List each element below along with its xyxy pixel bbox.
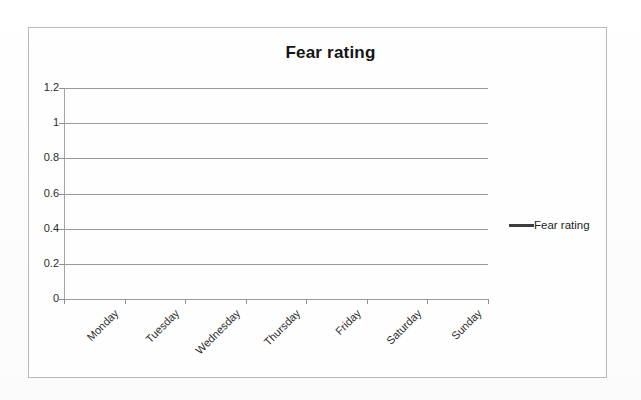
y-tick-label-wrap: 0.6: [29, 188, 59, 199]
plot-area: [64, 88, 488, 299]
y-tick-label: 0.4: [33, 223, 59, 234]
y-tick-label: 0.2: [33, 258, 59, 269]
y-tick-mark: [59, 88, 64, 89]
y-tick-mark: [59, 264, 64, 265]
y-tick-label-wrap: 0.8: [29, 152, 59, 163]
gridline: [64, 123, 488, 124]
chart-frame: Fear rating 00.20.40.60.811.2 MondayTues…: [28, 27, 607, 378]
gridline: [64, 158, 488, 159]
chart-legend: Fear rating: [509, 219, 590, 231]
x-tick-mark: [125, 299, 126, 304]
x-tick-mark: [246, 299, 247, 304]
y-tick-label-wrap: 0: [29, 293, 59, 304]
x-tick-mark: [306, 299, 307, 304]
x-axis-category-label: Monday: [85, 307, 121, 343]
x-tick-mark: [64, 299, 65, 304]
gridline: [64, 194, 488, 195]
y-tick-mark: [59, 229, 64, 230]
y-tick-label: 1: [33, 117, 59, 128]
y-tick-label: 0.8: [33, 152, 59, 163]
y-tick-label: 1.2: [33, 82, 59, 93]
y-tick-mark: [59, 158, 64, 159]
x-axis-category-label: Saturday: [384, 307, 424, 347]
y-tick-mark: [59, 194, 64, 195]
y-tick-label: 0: [33, 293, 59, 304]
y-tick-mark: [59, 123, 64, 124]
x-axis-category-label: Sunday: [449, 307, 484, 342]
x-tick-mark: [185, 299, 186, 304]
x-axis-category-label: Tuesday: [143, 307, 181, 345]
chart-screenshot: Fear rating 00.20.40.60.811.2 MondayTues…: [0, 0, 641, 400]
y-tick-label-wrap: 0.2: [29, 258, 59, 269]
legend-line-marker: [509, 224, 534, 227]
legend-item-label: Fear rating: [534, 219, 590, 231]
chart-title: Fear rating: [29, 43, 606, 63]
y-tick-label: 0.6: [33, 188, 59, 199]
x-tick-mark: [427, 299, 428, 304]
y-tick-label-wrap: 1.2: [29, 82, 59, 93]
chart-title-text: Fear rating: [285, 43, 375, 63]
gridline: [64, 229, 488, 230]
gridline: [64, 264, 488, 265]
x-axis-category-label: Thursday: [262, 307, 303, 348]
y-tick-label-wrap: 1: [29, 117, 59, 128]
y-tick-label-wrap: 0.4: [29, 223, 59, 234]
gridline: [64, 88, 488, 89]
x-tick-mark: [488, 299, 489, 304]
x-tick-mark: [367, 299, 368, 304]
x-axis-category-label: Wednesday: [192, 307, 241, 356]
gridline: [64, 299, 488, 300]
x-axis-category-label: Friday: [333, 307, 363, 337]
